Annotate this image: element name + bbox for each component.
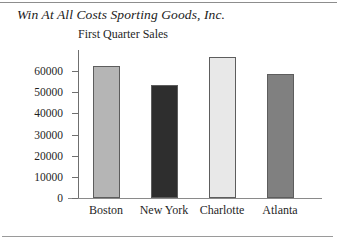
y-tick-label: 40000 [34, 107, 63, 119]
y-tick: 20000 [72, 156, 78, 157]
plot-area: 0100002000030000400005000060000 BostonNe… [78, 50, 322, 199]
x-label-charlotte: Charlotte [200, 203, 245, 218]
bar-charlotte [209, 57, 236, 198]
bar-atlanta [267, 74, 294, 198]
bar-boston [93, 66, 120, 198]
x-label-new-york: New York [140, 203, 189, 218]
chart-figure: Win At All Costs Sporting Goods, Inc. Fi… [0, 0, 337, 247]
y-axis-line [78, 50, 79, 199]
y-tick-label: 30000 [34, 129, 63, 141]
y-tick: 10000 [72, 177, 78, 178]
chart-title: Win At All Costs Sporting Goods, Inc. [17, 7, 225, 23]
y-tick-label: 0 [57, 192, 63, 204]
y-tick-label: 10000 [34, 171, 63, 183]
y-tick: 30000 [72, 135, 78, 136]
y-tick-label: 60000 [34, 65, 63, 77]
y-tick: 40000 [72, 113, 78, 114]
y-tick-label: 50000 [34, 86, 63, 98]
chart-subtitle: First Quarter Sales [78, 27, 168, 42]
x-label-atlanta: Atlanta [262, 203, 297, 218]
y-tick-label: 20000 [34, 150, 63, 162]
y-tick: 50000 [72, 92, 78, 93]
y-tick: 0 [72, 198, 78, 199]
bar-new-york [151, 85, 178, 198]
figure-top-border [0, 2, 337, 3]
figure-bottom-border [2, 236, 333, 237]
x-label-boston: Boston [89, 203, 123, 218]
y-tick: 60000 [72, 71, 78, 72]
x-axis-line [68, 198, 322, 199]
